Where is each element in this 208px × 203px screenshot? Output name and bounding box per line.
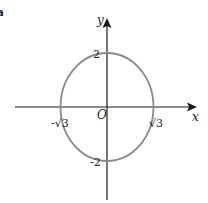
x-tick-neg-sqrt3: -√3 bbox=[51, 117, 69, 130]
y-axis-label: y bbox=[96, 13, 104, 27]
ellipse-plot: a y x O 2 -2 -√3 √3 bbox=[0, 0, 208, 203]
y-tick-2: 2 bbox=[93, 48, 100, 61]
part-label: a bbox=[0, 7, 4, 18]
y-tick-neg-2: -2 bbox=[90, 156, 101, 169]
origin-label: O bbox=[97, 108, 107, 122]
x-tick-sqrt3: √3 bbox=[149, 117, 163, 130]
x-axis-label: x bbox=[192, 110, 199, 124]
